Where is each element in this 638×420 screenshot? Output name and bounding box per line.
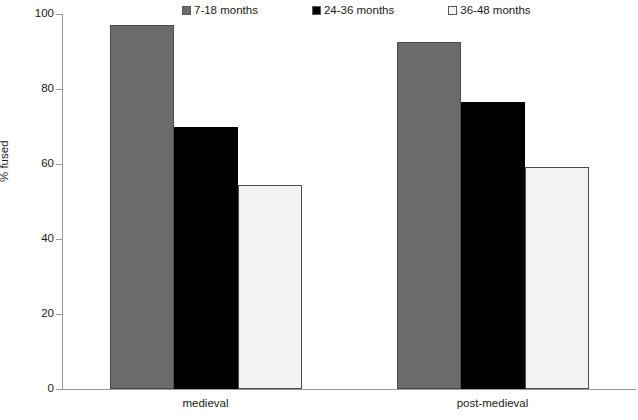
bar [174, 127, 238, 390]
y-axis-tick-label: 0 [14, 383, 54, 394]
x-axis-category-label: post-medieval [349, 397, 636, 409]
y-axis-tick-label: 20 [14, 308, 54, 319]
x-axis-category-label: medieval [62, 397, 349, 409]
y-axis-line [62, 14, 63, 389]
bar [397, 42, 461, 389]
y-axis-tick [56, 239, 62, 240]
y-axis-tick-label: 80 [14, 83, 54, 94]
bar [110, 25, 174, 389]
bar [238, 185, 302, 389]
y-axis-tick-label: 100 [14, 8, 54, 19]
x-axis-line [62, 389, 636, 390]
plot-area: 020406080100 medievalpost-medieval [62, 14, 636, 389]
bar [525, 167, 589, 389]
y-axis-tick [56, 164, 62, 165]
y-axis-tick-label: 40 [14, 233, 54, 244]
bar [461, 102, 525, 389]
y-axis-tick [56, 89, 62, 90]
y-axis-tick [56, 14, 62, 15]
y-axis-tick-label: 60 [14, 158, 54, 169]
bar-chart: 7-18 months 24-36 months 36-48 months 02… [0, 0, 638, 420]
y-axis-tick [56, 314, 62, 315]
y-axis-title: % fused [0, 140, 10, 182]
y-axis-tick [56, 389, 62, 390]
